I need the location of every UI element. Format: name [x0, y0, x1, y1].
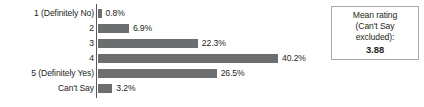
bar-group: 26.5%: [98, 66, 245, 80]
mean-rating-line-2: (Can't Say: [356, 21, 395, 32]
category-label: 3: [0, 38, 94, 48]
chart-row: 1 (Definitely No) 0.8%: [0, 6, 320, 20]
bar-value-label: 3.2%: [116, 83, 135, 93]
bar: [98, 39, 198, 48]
bar-value-label: 26.5%: [221, 68, 245, 78]
category-label: Can't Say: [0, 83, 94, 93]
bar-group: 3.2%: [98, 81, 136, 95]
category-label: 2: [0, 23, 94, 33]
category-label: 5 (Definitely Yes): [0, 68, 94, 78]
bar: [98, 69, 217, 78]
bar-group: 0.8%: [98, 6, 125, 20]
category-label: 1 (Definitely No): [0, 8, 94, 18]
bar: [98, 54, 278, 63]
bar-value-label: 40.2%: [282, 53, 306, 63]
mean-rating-value: 3.88: [366, 44, 384, 56]
category-label: 4: [0, 53, 94, 63]
bar: [98, 9, 102, 18]
bar: [98, 84, 112, 93]
chart-row: 3 22.3%: [0, 36, 320, 50]
chart-row: 4 40.2%: [0, 51, 320, 65]
bar-group: 6.9%: [98, 21, 152, 35]
mean-rating-line-3: excluded):: [356, 32, 395, 43]
chart-row: Can't Say 3.2%: [0, 81, 320, 95]
bar-group: 22.3%: [98, 36, 226, 50]
bar-value-label: 0.8%: [106, 8, 125, 18]
mean-rating-callout: Mean rating (Can't Say excluded): 3.88: [331, 6, 419, 60]
bar-value-label: 6.9%: [133, 23, 152, 33]
mean-rating-line-1: Mean rating: [353, 10, 397, 21]
bar-group: 40.2%: [98, 51, 306, 65]
bar: [98, 24, 129, 33]
chart-row: 2 6.9%: [0, 21, 320, 35]
chart-row: 5 (Definitely Yes) 26.5%: [0, 66, 320, 80]
horizontal-bar-chart: 1 (Definitely No) 0.8% 2 6.9% 3 22.3% 4 …: [0, 0, 320, 107]
bar-value-label: 22.3%: [202, 38, 226, 48]
